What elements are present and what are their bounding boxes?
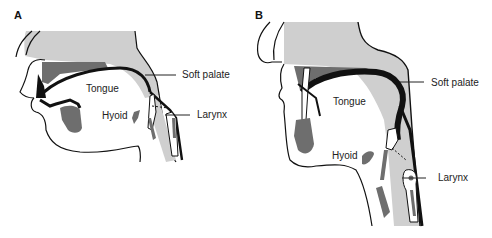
panel-b: B Soft palate Tongue Hyoid Larynx — [246, 0, 492, 238]
panel-letter: B — [255, 9, 263, 21]
panel-letter: A — [14, 9, 22, 21]
label-soft-palate: Soft palate — [431, 77, 479, 88]
label-hyoid: Hyoid — [102, 110, 128, 121]
panel-a: A Soft palate Tongue Hyoid Larynx — [0, 0, 246, 238]
label-tongue: Tongue — [333, 96, 366, 107]
label-larynx: Larynx — [438, 172, 468, 183]
label-tongue: Tongue — [86, 83, 119, 94]
label-hyoid: Hyoid — [332, 150, 358, 161]
label-soft-palate: Soft palate — [182, 69, 230, 80]
label-larynx: Larynx — [197, 109, 227, 120]
vocal-tract-diagram-b — [246, 0, 492, 238]
